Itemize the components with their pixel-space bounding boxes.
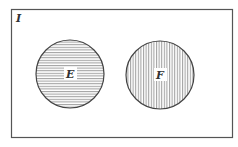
set-f: F [126,41,194,109]
universe-label: I [15,12,22,25]
set-f-label: F [155,69,165,82]
set-e: E [36,40,104,108]
set-e-label: E [65,68,75,81]
venn-diagram: I E F [0,0,238,147]
